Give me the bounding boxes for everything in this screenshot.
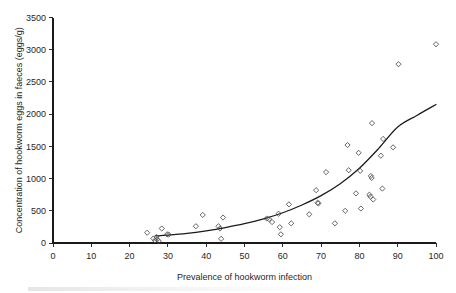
- data-point-marker: [159, 226, 164, 231]
- data-point-marker: [378, 153, 383, 158]
- data-point-marker: [219, 236, 224, 241]
- x-axis-tick-label: 40: [201, 251, 211, 261]
- data-point-marker: [277, 225, 282, 230]
- data-point-marker: [358, 206, 363, 211]
- y-axis-tick-label: 500: [31, 206, 46, 216]
- data-point-marker: [286, 202, 291, 207]
- x-axis-title: Prevalence of hookworm infection: [177, 272, 312, 282]
- data-point-marker: [369, 121, 374, 126]
- data-point-marker: [323, 170, 328, 175]
- x-axis-tick-label: 20: [125, 251, 135, 261]
- data-point-marker: [356, 150, 361, 155]
- data-point-marker: [353, 191, 358, 196]
- data-point-marker: [343, 208, 348, 213]
- data-point-marker: [289, 221, 294, 226]
- data-point-marker: [433, 42, 438, 47]
- data-point-marker: [396, 62, 401, 67]
- chart-canvas: 0500100015002000250030003500010203040506…: [0, 0, 456, 293]
- data-point-marker: [345, 142, 350, 147]
- data-point-marker: [220, 215, 225, 220]
- data-point-marker: [391, 145, 396, 150]
- y-axis-tick-label: 0: [41, 238, 46, 248]
- x-axis-tick-label: 50: [239, 251, 249, 261]
- y-axis-tick-label: 3000: [26, 45, 46, 55]
- x-axis-tick-label: 70: [316, 251, 326, 261]
- data-point-marker: [314, 188, 319, 193]
- hookworm-scatter-figure: 0500100015002000250030003500010203040506…: [0, 0, 456, 293]
- y-axis-tick-label: 1500: [26, 142, 46, 152]
- data-point-marker: [200, 212, 205, 217]
- y-axis-title: Concentration of hookworm eggs in faeces…: [14, 27, 24, 233]
- y-axis-tick-label: 1000: [26, 174, 46, 184]
- y-axis-tick-label: 2500: [26, 77, 46, 87]
- x-axis-tick-label: 0: [50, 251, 55, 261]
- x-axis-tick-label: 100: [428, 251, 443, 261]
- data-point-marker: [193, 224, 198, 229]
- data-point-marker: [332, 221, 337, 226]
- plot-axes: [53, 18, 436, 244]
- data-point-marker: [145, 230, 150, 235]
- fitted-curve: [156, 104, 436, 235]
- x-axis-tick-label: 60: [278, 251, 288, 261]
- data-point-marker: [380, 186, 385, 191]
- data-point-marker: [371, 197, 376, 202]
- x-axis-tick-label: 90: [393, 251, 403, 261]
- data-point-marker: [307, 212, 312, 217]
- x-axis-tick-label: 10: [86, 251, 96, 261]
- data-point-marker: [346, 168, 351, 173]
- x-axis-tick-label: 30: [163, 251, 173, 261]
- x-axis-tick-label: 80: [354, 251, 364, 261]
- data-point-marker: [278, 232, 283, 237]
- y-axis-tick-label: 2000: [26, 109, 46, 119]
- y-axis-tick-label: 3500: [26, 13, 46, 23]
